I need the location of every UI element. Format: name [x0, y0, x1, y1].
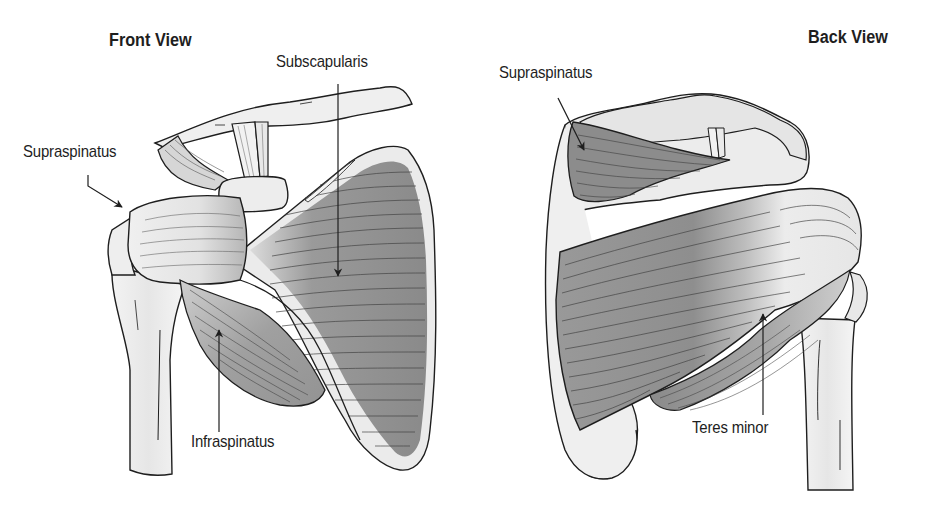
front-view-title: Front View	[109, 30, 192, 51]
rotator-cuff-diagram: Front View Back View Subscapularis Supra…	[0, 0, 938, 515]
label-teres-minor: Teres minor	[692, 418, 768, 438]
front-view-illustration	[88, 84, 436, 475]
label-supraspinatus-back: Supraspinatus	[499, 63, 592, 83]
label-subscapularis: Subscapularis	[276, 52, 368, 72]
supraspinatus-front-pointer-arrow	[88, 175, 122, 207]
label-infraspinatus: Infraspinatus	[191, 432, 274, 452]
back-view-title: Back View	[808, 27, 888, 48]
label-supraspinatus-front: Supraspinatus	[23, 142, 116, 162]
anatomy-illustration	[0, 0, 938, 515]
